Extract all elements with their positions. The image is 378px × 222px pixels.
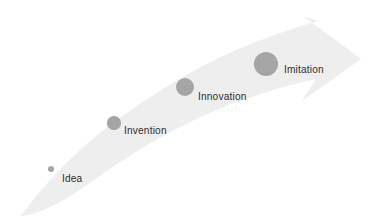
stage-label-imitation: Imitation <box>284 64 324 75</box>
stage-label-idea: Idea <box>62 173 82 184</box>
diagram-canvas: Idea Invention Innovation Imitation <box>0 0 378 222</box>
arrow-shape <box>21 16 362 217</box>
stage-label-invention: Invention <box>124 125 167 136</box>
progression-arrow-graphic <box>0 0 378 222</box>
node-dot-invention[interactable] <box>107 116 120 129</box>
arrow-body-path <box>21 16 362 217</box>
stage-label-innovation: Innovation <box>198 91 247 102</box>
